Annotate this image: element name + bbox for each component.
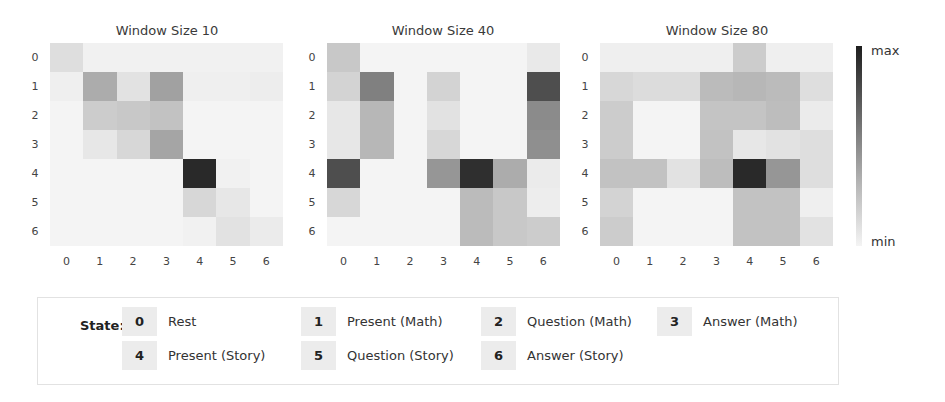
heatmap-cell — [150, 130, 183, 159]
y-tick-label: 3 — [578, 138, 592, 151]
x-tick-label: 5 — [767, 255, 800, 268]
heatmap-cell — [460, 188, 493, 217]
colorbar-max-label: max — [871, 43, 899, 58]
heatmap-cell — [600, 159, 633, 188]
heatmap-cell — [427, 43, 460, 72]
x-tick-label: 2 — [117, 255, 150, 268]
legend-label: Present (Math) — [347, 314, 443, 329]
heatmap-cell — [460, 130, 493, 159]
x-tick-label: 6 — [800, 255, 833, 268]
heatmap-cell — [117, 159, 150, 188]
heatmap-cell — [83, 72, 116, 101]
heatmap-cell — [667, 130, 700, 159]
state-badge: 0 — [122, 307, 157, 336]
heatmap-cell — [117, 188, 150, 217]
x-tick-label: 3 — [427, 255, 460, 268]
heatmap-cell — [600, 217, 633, 246]
heatmap-cell — [766, 217, 799, 246]
heatmap-cell — [460, 159, 493, 188]
heatmap-grid — [50, 43, 283, 246]
heatmap-cell — [327, 159, 360, 188]
heatmap-cell — [700, 130, 733, 159]
y-tick-label: 2 — [305, 109, 319, 122]
heatmap-cell — [150, 72, 183, 101]
y-tick-label: 4 — [28, 167, 42, 180]
heatmap-cell — [327, 217, 360, 246]
heatmap-cell — [633, 72, 666, 101]
heatmap-cell — [766, 159, 799, 188]
heatmap-cell — [493, 43, 526, 72]
heatmap-cell — [527, 188, 560, 217]
heatmap-grid — [327, 43, 560, 246]
heatmap-cell — [183, 101, 216, 130]
heatmap-cell — [50, 101, 83, 130]
x-tick-label: 0 — [600, 255, 633, 268]
y-tick-label: 3 — [305, 138, 319, 151]
panel-title: Window Size 80 — [666, 23, 769, 38]
heatmap-cell — [667, 188, 700, 217]
y-tick-label: 5 — [305, 196, 319, 209]
heatmap-cell — [360, 101, 393, 130]
heatmap-cell — [117, 101, 150, 130]
heatmap-cell — [766, 101, 799, 130]
heatmap-cell — [117, 43, 150, 72]
heatmap-cell — [50, 159, 83, 188]
heatmap-cell — [800, 217, 833, 246]
heatmap-cell — [327, 101, 360, 130]
x-tick-label: 0 — [327, 255, 360, 268]
heatmap-cell — [250, 188, 283, 217]
heatmap-cell — [427, 217, 460, 246]
heatmap-cell — [700, 217, 733, 246]
y-tick-label: 1 — [305, 80, 319, 93]
heatmap-cell — [460, 43, 493, 72]
heatmap-cell — [667, 159, 700, 188]
heatmap-cell — [360, 72, 393, 101]
heatmap-cell — [700, 72, 733, 101]
heatmap-cell — [527, 130, 560, 159]
heatmap-cell — [183, 130, 216, 159]
heatmap-cell — [633, 159, 666, 188]
heatmap-cell — [493, 101, 526, 130]
y-tick-label: 6 — [305, 225, 319, 238]
heatmap-cell — [394, 217, 427, 246]
heatmap-cell — [216, 130, 249, 159]
x-tick-label: 3 — [700, 255, 733, 268]
legend-label: Answer (Math) — [703, 314, 798, 329]
x-tick-label: 4 — [460, 255, 493, 268]
heatmap-cell — [633, 130, 666, 159]
heatmap-cell — [50, 72, 83, 101]
heatmap-cell — [250, 72, 283, 101]
heatmap-cell — [527, 72, 560, 101]
heatmap-cell — [800, 159, 833, 188]
heatmap-cell — [216, 101, 249, 130]
heatmap-cell — [667, 72, 700, 101]
legend-item-answer-story: 6 Answer (Story) — [481, 341, 624, 370]
heatmap-cell — [600, 130, 633, 159]
colorbar — [856, 46, 862, 246]
heatmap-cell — [493, 217, 526, 246]
state-badge: 4 — [122, 341, 157, 370]
heatmap-cell — [394, 130, 427, 159]
x-tick-label: 2 — [667, 255, 700, 268]
heatmap-cell — [250, 43, 283, 72]
panel-title: Window Size 40 — [392, 23, 495, 38]
heatmap-cell — [183, 159, 216, 188]
x-tick-label: 3 — [150, 255, 183, 268]
heatmap-cell — [667, 43, 700, 72]
heatmap-cell — [427, 159, 460, 188]
heatmap-cell — [83, 130, 116, 159]
y-tick-label: 1 — [28, 80, 42, 93]
heatmap-cell — [327, 130, 360, 159]
heatmap-cell — [460, 72, 493, 101]
heatmap-cell — [327, 188, 360, 217]
heatmap-cell — [83, 217, 116, 246]
x-tick-label: 5 — [494, 255, 527, 268]
heatmap-cell — [733, 101, 766, 130]
heatmap-cell — [150, 43, 183, 72]
heatmap-cell — [360, 217, 393, 246]
heatmap-cell — [150, 188, 183, 217]
heatmap-cell — [250, 159, 283, 188]
heatmap-cell — [700, 101, 733, 130]
heatmap-cell — [50, 188, 83, 217]
x-tick-label: 1 — [83, 255, 116, 268]
